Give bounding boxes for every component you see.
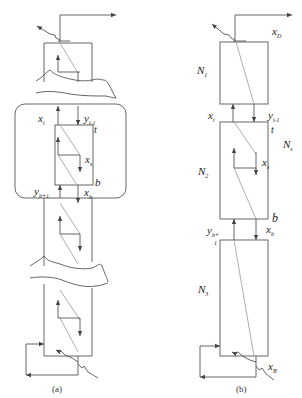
label-x-b: xb [83, 186, 92, 200]
label-n2: N2 [197, 165, 208, 179]
panel-b: xD N1 xt yt-1 t Ns N2 xs b yb+ 1 xb N3 x… [196, 15, 293, 394]
top-section-box [44, 43, 92, 82]
bottoms-out [78, 364, 98, 378]
section-n1-box [220, 42, 268, 104]
distillate-arrow [235, 15, 292, 42]
reboiler-return [26, 356, 78, 375]
label-b: b [95, 176, 101, 188]
label-n1: N1 [196, 64, 207, 78]
label-x-d: xD [271, 25, 282, 39]
panel-a: xt yt-1 t xs b yb+1 xb (a) [15, 15, 126, 394]
bottom-section-box [44, 284, 92, 356]
caption-a: (a) [52, 384, 62, 394]
label-t: t [94, 124, 97, 135]
label-t: t [271, 124, 274, 135]
distillate-arrow [60, 15, 116, 42]
vapor-arrow [37, 26, 60, 40]
break-line-top [36, 70, 116, 98]
label-ns: Ns [282, 138, 293, 152]
label-y-b-plus-1-cont: 1 [214, 240, 217, 246]
label-x-t: xt [207, 109, 215, 123]
label-y-b-plus-1: yb+ [206, 224, 219, 238]
label-b: b [272, 211, 278, 225]
break-line-lower-bottom [30, 277, 108, 287]
label-x-t: xt [37, 112, 45, 126]
label-y-t-minus-1: yt-1 [267, 109, 280, 123]
label-x-s: xs [261, 156, 270, 170]
label-x-s: xs [84, 153, 93, 167]
break-line-bottom [36, 91, 116, 98]
label-y-b-plus-1: yb+1 [33, 185, 49, 199]
distillation-column-diagram: xt yt-1 t xs b yb+1 xb (a) [0, 0, 302, 398]
caption-b: (b) [236, 384, 247, 394]
label-x-b: xb [265, 223, 274, 237]
operating-line [60, 43, 78, 73]
break-line-lower-top [30, 256, 108, 282]
feed-section-highlight [15, 104, 126, 198]
label-x-bottoms: xB [267, 360, 277, 374]
label-n3: N3 [197, 283, 208, 297]
